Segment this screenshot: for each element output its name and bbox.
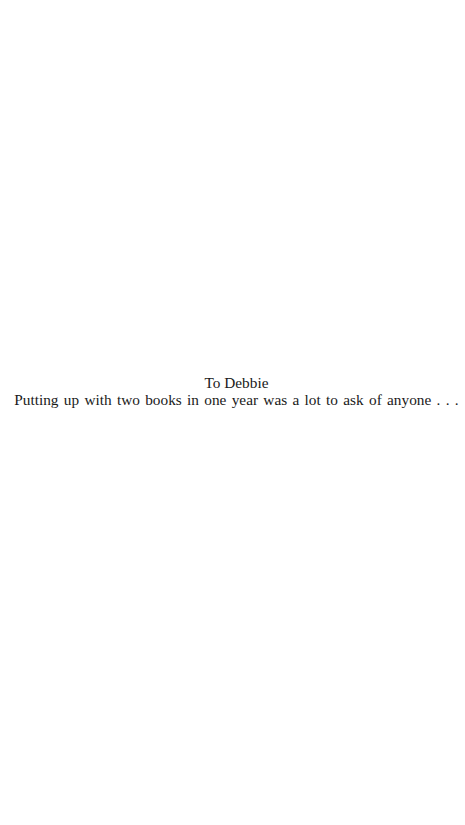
dedication-block: To Debbie Putting up with two books in o… [4,374,465,408]
dedication-text: Putting up with two books in one year wa… [4,391,465,408]
dedication-page: To Debbie Putting up with two books in o… [0,0,465,825]
dedication-heading: To Debbie [4,374,465,391]
